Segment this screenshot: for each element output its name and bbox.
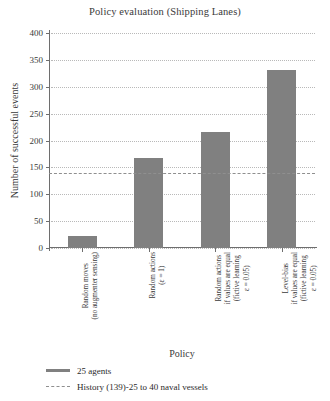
y-tick-label: 250 [30, 109, 44, 119]
y-axis-title-text: Number of successful events [10, 83, 21, 198]
y-tick-label: 0 [39, 243, 44, 253]
y-tick-label: 50 [34, 216, 43, 226]
bar [201, 132, 230, 248]
chart-title: Policy evaluation (Shipping Lanes) [0, 6, 330, 17]
x-axis-category-label: Random moves (no augmenter sensing) [82, 252, 128, 344]
x-axis-category-label-text: Random actions if values are equal (fict… [215, 252, 252, 304]
bar [134, 158, 163, 248]
x-axis-category-label-text: Level-bias if values are equal (fictive … [282, 252, 319, 304]
y-tick-label: 300 [30, 82, 44, 92]
bar [68, 236, 97, 248]
legend-label: 25 agents [77, 366, 111, 376]
y-axis-title: Number of successful events [8, 33, 22, 248]
x-axis-category-label-text: Random moves (no augmenter sensing) [82, 252, 100, 319]
x-axis-category-label: Level-bias if values are equal (fictive … [282, 252, 328, 344]
y-tick-mark [46, 248, 50, 249]
gridline-0 [51, 248, 315, 249]
policy-evaluation-bar-chart: Policy evaluation (Shipping Lanes) Numbe… [0, 0, 330, 401]
reference-line-history [49, 173, 315, 174]
y-tick-label: 350 [30, 55, 44, 65]
plot-frame: 050100150200250300350400 [49, 33, 315, 248]
x-axis-category-label: Random actions (ε = 1) [149, 252, 195, 344]
legend-label: History (139)-25 to 40 naval vessels [77, 382, 208, 392]
chart-legend: 25 agentsHistory (139)-25 to 40 naval ve… [46, 364, 208, 393]
x-axis-category-label-text: Random actions (ε = 1) [149, 252, 167, 299]
legend-swatch-solid [46, 369, 70, 372]
x-axis-category-labels: Random moves (no augmenter sensing)Rando… [49, 252, 315, 344]
y-tick-label: 400 [30, 28, 44, 38]
y-tick-label: 150 [30, 162, 44, 172]
plot-area: 050100150200250300350400 [49, 33, 315, 248]
x-axis-title: Policy [49, 348, 315, 359]
y-tick-label: 100 [30, 189, 44, 199]
bars-layer [49, 33, 315, 248]
bar [267, 70, 296, 248]
legend-item: History (139)-25 to 40 naval vessels [46, 380, 208, 393]
legend-item: 25 agents [46, 364, 208, 377]
x-axis-category-label: Random actions if values are equal (fict… [215, 252, 261, 344]
y-tick-label: 200 [30, 136, 44, 146]
legend-swatch-dashed [46, 386, 70, 387]
